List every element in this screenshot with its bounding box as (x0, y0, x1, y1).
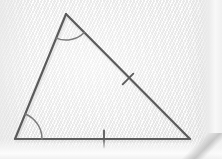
bottom-left-angle-arc-icon (25, 114, 42, 139)
triangle-side-left (15, 14, 66, 139)
scanned-geometry-figure (0, 0, 222, 159)
triangle-diagram (0, 0, 222, 159)
triangle-drop-shadow (16, 16, 191, 141)
